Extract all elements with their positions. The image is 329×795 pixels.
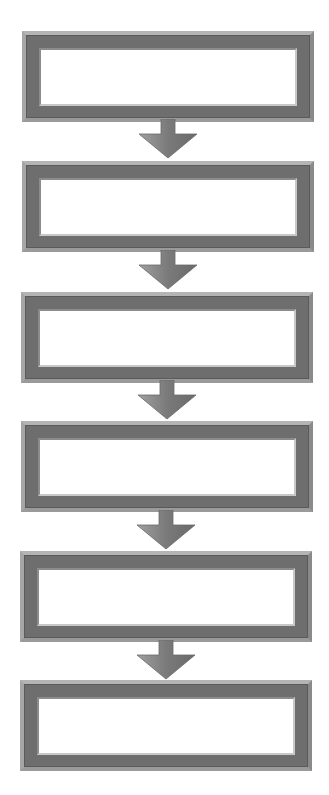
flow-step-4-label — [38, 438, 296, 496]
flow-step-6-label — [37, 697, 295, 755]
down-arrow-icon — [139, 250, 197, 290]
flow-step-4 — [21, 421, 313, 512]
flow-step-1-label — [39, 48, 297, 106]
down-arrow-icon — [139, 119, 197, 159]
flow-step-6 — [20, 680, 312, 771]
flow-step-2-label — [39, 178, 297, 236]
flow-step-3 — [21, 292, 313, 383]
flow-step-1 — [22, 31, 314, 122]
down-arrow-icon — [137, 640, 195, 680]
down-arrow-icon — [137, 510, 195, 550]
down-arrow-icon — [138, 380, 196, 420]
flow-step-2 — [22, 161, 314, 252]
flow-step-5-label — [37, 568, 295, 626]
flow-step-3-label — [38, 309, 296, 367]
flow-step-5 — [20, 551, 312, 642]
flowchart — [0, 0, 329, 795]
